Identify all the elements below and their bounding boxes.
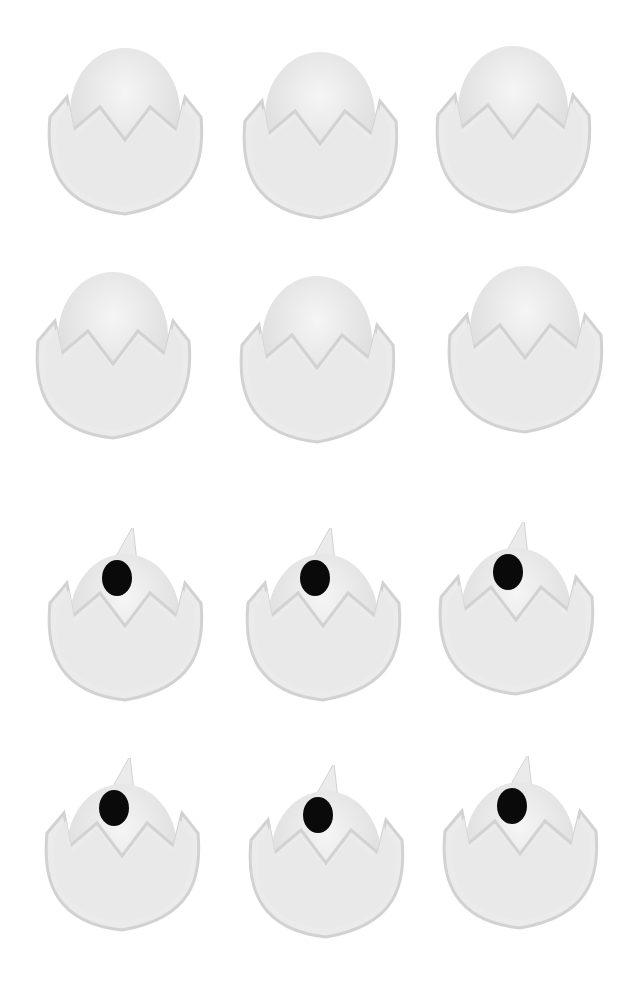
chick-egg-figure [243,528,403,708]
chick-egg-figure [246,765,406,945]
plain-egg-figure [33,266,193,446]
plain-egg-figure [237,270,397,450]
plain-egg-figure [445,260,605,440]
plain-egg-figure [240,46,400,226]
chick-egg-figure [440,756,600,936]
chick-egg-figure [436,522,596,702]
chick-egg-figure [45,528,205,708]
plain-egg-figure [45,42,205,222]
plain-egg-figure [433,40,593,220]
chick-egg-figure [42,758,202,938]
